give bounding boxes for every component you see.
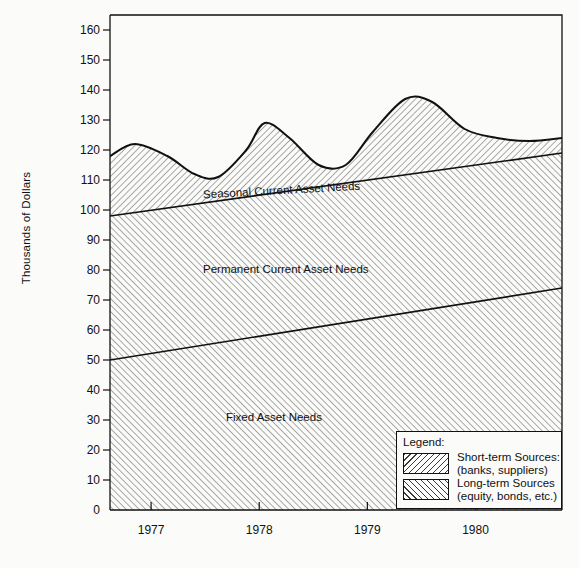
chart-figure: Thousands of Dollars 0102030405060708090… [0, 0, 579, 568]
legend-swatch-long-term-icon [403, 479, 449, 500]
x-tick-1979: 1979 [354, 523, 381, 537]
legend-label-short-term-line2: (banks, suppliers) [457, 464, 560, 477]
legend-label-long-term-line1: Long-term Sources [457, 477, 557, 490]
x-tick-1977: 1977 [138, 523, 165, 537]
x-tick-1978: 1978 [246, 523, 273, 537]
legend-title: Legend: [403, 436, 555, 449]
legend-label-short-term-line1: Short-term Sources: [457, 451, 560, 464]
y-axis-ticks [103, 30, 110, 480]
area-label-fixed: Fixed Asset Needs [226, 411, 322, 423]
x-tick-1980: 1980 [462, 523, 489, 537]
legend-swatch-short-term-icon [403, 453, 449, 474]
legend-label-long-term-line2: (equity, bonds, etc.) [457, 490, 557, 503]
legend-row-long-term: Long-term Sources (equity, bonds, etc.) [403, 477, 555, 502]
legend: Legend: Short-term Sources: (banks, supp… [396, 431, 562, 509]
legend-row-short-term: Short-term Sources: (banks, suppliers) [403, 451, 555, 476]
area-label-permanent: Permanent Current Asset Needs [203, 263, 369, 275]
